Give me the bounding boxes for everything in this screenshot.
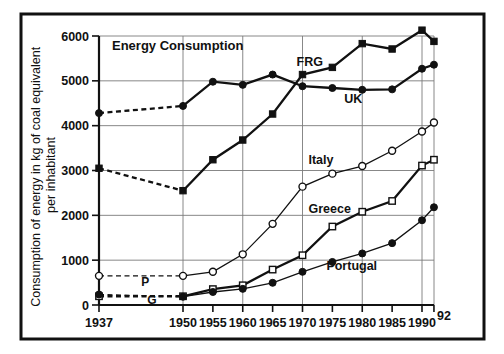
x-tick-label: 1970 xyxy=(289,316,317,330)
x-tick-label: 92 xyxy=(437,309,451,323)
data-point-uk xyxy=(419,65,426,72)
data-point-frg xyxy=(431,38,437,44)
data-point-uk xyxy=(239,81,246,88)
data-point-greece xyxy=(359,209,365,215)
data-point-portugal xyxy=(419,217,426,224)
data-point-greece xyxy=(269,266,275,272)
data-point-uk xyxy=(209,78,216,85)
data-point-portugal xyxy=(209,288,216,295)
y-tick-label: 2000 xyxy=(61,209,89,223)
x-tick-label: 1937 xyxy=(85,316,113,330)
data-point-greece xyxy=(299,252,305,258)
data-point-uk xyxy=(299,83,306,90)
data-point-portugal xyxy=(269,279,276,286)
data-point-italy xyxy=(180,272,187,279)
data-point-portugal xyxy=(180,293,187,300)
data-point-uk xyxy=(96,110,103,117)
y-tick-label: 4000 xyxy=(61,119,89,133)
data-point-frg xyxy=(180,187,186,193)
figure-container: 0100020003000400050006000 19371950195519… xyxy=(0,0,504,354)
data-point-uk xyxy=(430,61,437,68)
greece-short-label: G xyxy=(147,293,156,307)
data-point-frg xyxy=(240,137,246,143)
data-point-portugal xyxy=(299,268,306,275)
series-label-greece: Greece xyxy=(308,202,350,216)
data-point-italy xyxy=(299,183,306,190)
series-label-uk: UK xyxy=(344,92,362,106)
x-tick-label: 1955 xyxy=(199,316,227,330)
chart-title: Energy Consumption xyxy=(112,38,244,53)
y-tick-label: 0 xyxy=(82,299,89,313)
data-point-uk xyxy=(269,71,276,78)
data-point-italy xyxy=(96,272,103,279)
x-tick-label: 1960 xyxy=(229,316,257,330)
data-point-frg xyxy=(389,46,395,52)
data-point-italy xyxy=(269,220,276,227)
y-tick-label: 1000 xyxy=(61,254,89,268)
data-point-uk xyxy=(329,85,336,92)
series-label-frg: FRG xyxy=(297,55,323,69)
data-point-greece xyxy=(431,157,437,163)
series-label-portugal: Portugal xyxy=(326,259,377,273)
data-point-frg xyxy=(96,165,102,171)
y-tick-label: 3000 xyxy=(61,164,89,178)
x-tick-label: 1975 xyxy=(318,316,346,330)
data-point-portugal xyxy=(96,291,103,298)
data-point-portugal xyxy=(430,204,437,211)
x-tick-label: 1965 xyxy=(259,316,287,330)
energy-consumption-chart: 0100020003000400050006000 19371950195519… xyxy=(0,0,504,354)
data-point-portugal xyxy=(359,250,366,257)
data-point-italy xyxy=(239,251,246,258)
data-point-portugal xyxy=(389,240,396,247)
series-label-italy: Italy xyxy=(308,153,333,167)
data-point-italy xyxy=(359,163,366,170)
data-point-greece xyxy=(419,162,425,168)
portugal-short-label: P xyxy=(141,275,149,289)
data-point-uk xyxy=(180,102,187,109)
data-point-italy xyxy=(209,268,216,275)
data-point-greece xyxy=(329,223,335,229)
data-point-frg xyxy=(419,27,425,33)
y-tick-label: 5000 xyxy=(61,74,89,88)
data-point-greece xyxy=(389,198,395,204)
data-point-frg xyxy=(269,111,275,117)
data-point-uk xyxy=(389,86,396,93)
data-point-italy xyxy=(430,119,437,126)
data-point-frg xyxy=(210,157,216,163)
data-point-italy xyxy=(329,170,336,177)
data-point-italy xyxy=(389,147,396,154)
y-tick-label: 6000 xyxy=(61,30,89,44)
data-point-frg xyxy=(329,64,335,70)
x-tick-label: 1980 xyxy=(348,316,376,330)
data-point-portugal xyxy=(239,285,246,292)
x-tick-label: 1950 xyxy=(169,316,197,330)
data-point-italy xyxy=(419,128,426,135)
x-tick-label: 1990 xyxy=(408,316,436,330)
data-point-frg xyxy=(359,40,365,46)
x-tick-label: 1985 xyxy=(378,316,406,330)
data-point-frg xyxy=(299,71,305,77)
